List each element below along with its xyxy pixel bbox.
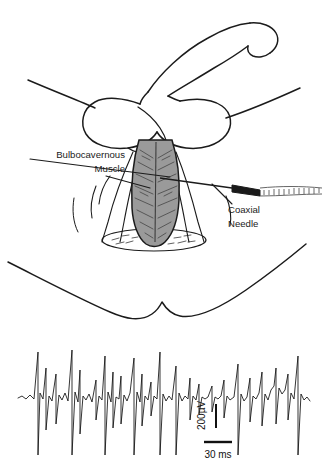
label-bulbocavernous-line2: Muscle (95, 163, 125, 174)
horizontal-scale-label: 30 ms (204, 449, 231, 460)
bulbocavernous-muscle-graphic (132, 140, 179, 246)
label-coaxial-line2: Needle (228, 218, 258, 229)
label-coaxial-line1: Coaxial (228, 204, 260, 215)
vertical-scale-label: 200µV (196, 401, 207, 430)
label-bulbocavernous-line1: Bulbocavernous (56, 149, 125, 160)
figure-canvas: Bulbocavernous Muscle Coaxial Needle 200… (0, 0, 325, 470)
